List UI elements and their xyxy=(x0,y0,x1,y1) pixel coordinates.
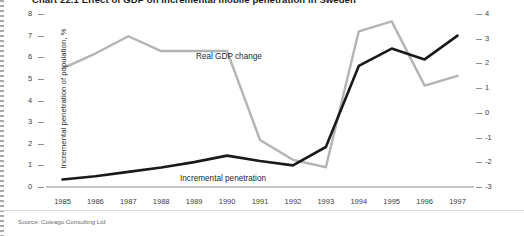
x-axis-year-label: 1992 xyxy=(276,197,310,207)
left-tick-mark xyxy=(38,144,44,145)
left-tick-label: 6 xyxy=(28,53,32,61)
left-tick-label: 2 xyxy=(28,140,32,148)
x-axis-year-label: 1986 xyxy=(78,197,112,207)
annotation-incremental-penetration: Incremental penetration xyxy=(180,174,266,183)
x-axis-year-label: 1988 xyxy=(144,197,178,207)
right-tick-label: 1 xyxy=(485,84,489,92)
x-axis-year-label: 1989 xyxy=(177,197,211,207)
left-tick-label: 1 xyxy=(28,161,32,169)
left-tick-mark xyxy=(38,101,44,102)
plot-area: 012345678 -3-2-101234 Incremental penetr… xyxy=(46,14,474,188)
left-tick-label: 4 xyxy=(28,97,32,105)
left-axis-title: Incremental penetration of population, % xyxy=(59,24,68,174)
right-tick-label: 2 xyxy=(485,59,489,67)
x-axis-year-label: 1996 xyxy=(408,197,442,207)
left-tick-mark xyxy=(38,14,44,15)
right-tick-label: 4 xyxy=(485,10,489,18)
right-tick-label: -3 xyxy=(485,183,492,191)
x-axis-year-label: 1995 xyxy=(375,197,409,207)
source-note: Source: Coleago Consulting Ltd xyxy=(18,218,105,225)
right-tick-mark xyxy=(476,113,482,114)
left-tick-label: 7 xyxy=(28,32,32,40)
x-axis-year-label: 1993 xyxy=(309,197,343,207)
left-tick-mark xyxy=(38,187,44,188)
x-axis-year-label: 1997 xyxy=(441,197,475,207)
right-tick-mark xyxy=(476,162,482,163)
chart-svg xyxy=(46,14,474,188)
x-axis-year-label: 1991 xyxy=(243,197,277,207)
right-tick-mark xyxy=(476,187,482,188)
left-tick-mark xyxy=(38,79,44,80)
x-axis-year-label: 1987 xyxy=(111,197,145,207)
footer-divider xyxy=(0,210,524,211)
series-gdp xyxy=(62,21,457,167)
right-tick-mark xyxy=(476,88,482,89)
right-tick-label: -2 xyxy=(485,158,492,166)
right-tick-label: 0 xyxy=(485,109,489,117)
page-title: Chart 22.1 Effect of GDP on incremental … xyxy=(32,0,356,6)
left-tick-label: 5 xyxy=(28,75,32,83)
right-tick-mark xyxy=(476,63,482,64)
left-tick-label: 0 xyxy=(28,183,32,191)
x-axis-year-label: 1985 xyxy=(46,197,80,207)
right-tick-mark xyxy=(476,138,482,139)
x-axis-year-label: 1994 xyxy=(342,197,376,207)
left-tick-label: 8 xyxy=(28,10,32,18)
left-tick-mark xyxy=(38,36,44,37)
left-tick-mark xyxy=(38,57,44,58)
right-tick-mark xyxy=(476,39,482,40)
x-axis-labels: 1985198619871988198919901991199219931994… xyxy=(46,197,474,209)
right-tick-label: 3 xyxy=(485,35,489,43)
left-tick-label: 3 xyxy=(28,118,32,126)
gdp-line-path xyxy=(62,21,457,167)
x-axis-year-label: 1990 xyxy=(210,197,244,207)
right-tick-mark xyxy=(476,14,482,15)
right-tick-label: -1 xyxy=(485,134,492,142)
annotation-real-gdp-change: Real GDP change xyxy=(196,52,262,61)
left-tick-mark xyxy=(38,122,44,123)
left-tick-mark xyxy=(38,165,44,166)
binder-dot-strip xyxy=(0,0,4,236)
